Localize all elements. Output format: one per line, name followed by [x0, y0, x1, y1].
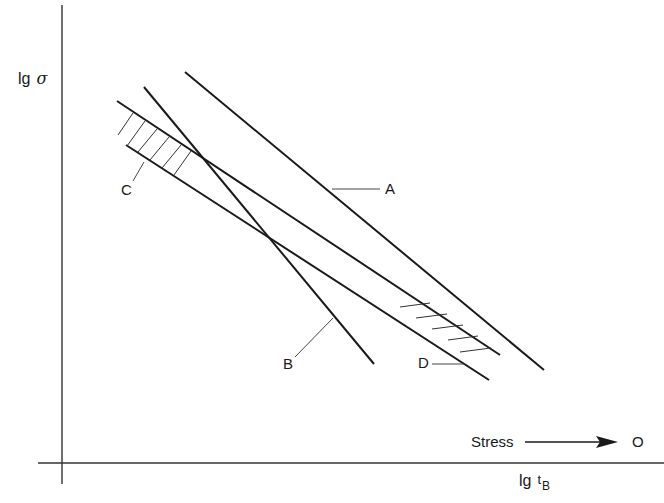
y-axis-label: lgσ — [18, 71, 47, 87]
curve-label-d: D — [418, 355, 429, 370]
curve-label-a: A — [385, 181, 395, 196]
curve-b-line — [144, 87, 374, 364]
curve-label-c: C — [121, 182, 132, 197]
curve-a-line — [185, 72, 544, 370]
y-axis-label-text: lg — [18, 70, 30, 87]
leader-c — [133, 162, 144, 181]
curve-label-b: B — [283, 356, 293, 371]
x-axis-label: lgtB — [519, 473, 550, 489]
hatch-region-d — [400, 303, 491, 352]
stress-target-label: O — [632, 434, 644, 449]
x-axis-label-text: lg — [519, 472, 531, 489]
band-upper-line — [117, 101, 500, 355]
sigma-symbol: σ — [36, 69, 47, 88]
x-axis-var: t — [537, 472, 541, 487]
x-axis-subscript: B — [542, 479, 550, 493]
stress-label: Stress — [471, 434, 514, 449]
leader-b — [295, 318, 333, 357]
diagram-canvas — [0, 0, 664, 503]
